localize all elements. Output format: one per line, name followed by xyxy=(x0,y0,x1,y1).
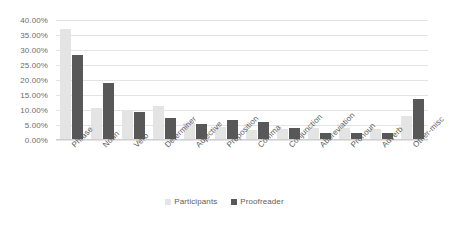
bar-group xyxy=(273,20,304,140)
x-axis-slot: Noun xyxy=(87,141,118,203)
y-axis-tick: 20.00% xyxy=(20,76,48,85)
y-axis-tick: 25.00% xyxy=(20,61,48,70)
bar-group xyxy=(397,20,428,140)
bar-participants[interactable] xyxy=(122,111,133,140)
x-axis-slot: Preposition xyxy=(211,141,242,203)
x-axis-labels: PhraseNounVerbDeterminerAdjectivePreposi… xyxy=(56,141,428,203)
bar-participants[interactable] xyxy=(91,108,102,140)
legend-item-participants[interactable]: Participants xyxy=(165,197,217,206)
legend-label: Proofreader xyxy=(240,197,283,206)
y-axis-tick: 0.00% xyxy=(25,136,48,145)
x-axis-slot: Pronoun xyxy=(335,141,366,203)
bar-chart: 40.00%35.00%30.00%25.00%20.00%15.00%10.0… xyxy=(0,0,449,228)
x-axis-slot: Other-misc xyxy=(397,141,428,203)
y-axis-tick: 30.00% xyxy=(20,46,48,55)
legend-swatch-icon xyxy=(231,199,237,205)
legend-swatch-icon xyxy=(165,199,171,205)
legend-label: Participants xyxy=(174,197,217,206)
y-axis: 40.00%35.00%30.00%25.00%20.00%15.00%10.0… xyxy=(0,20,52,140)
x-axis-slot: Verb xyxy=(118,141,149,203)
y-axis-tick: 35.00% xyxy=(20,31,48,40)
bar-participants[interactable] xyxy=(153,106,164,141)
bar-group xyxy=(118,20,149,140)
y-axis-tick: 15.00% xyxy=(20,91,48,100)
bar-proofreader[interactable] xyxy=(72,55,83,140)
y-axis-tick: 10.00% xyxy=(20,106,48,115)
chart-legend: ParticipantsProofreader xyxy=(0,197,449,206)
bar-group xyxy=(56,20,87,140)
x-axis-slot: Conjunction xyxy=(273,141,304,203)
x-axis-slot: Determiner xyxy=(149,141,180,203)
x-axis-slot: Abbreviation xyxy=(304,141,335,203)
legend-item-proofreader[interactable]: Proofreader xyxy=(231,197,283,206)
bar-group xyxy=(87,20,118,140)
bar-group xyxy=(149,20,180,140)
y-axis-tick: 5.00% xyxy=(25,121,48,130)
y-axis-tick: 40.00% xyxy=(20,16,48,25)
x-axis-slot: Phrase xyxy=(56,141,87,203)
x-axis-slot: Adverb xyxy=(366,141,397,203)
x-axis-slot: Adjective xyxy=(180,141,211,203)
bar-participants[interactable] xyxy=(60,29,71,140)
x-axis-slot: Comma xyxy=(242,141,273,203)
